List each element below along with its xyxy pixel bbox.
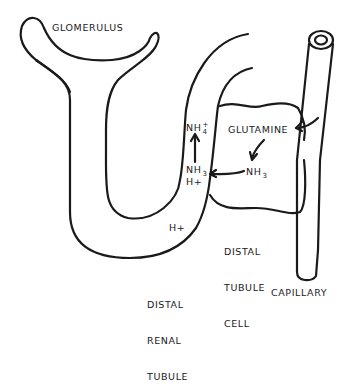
distal-tubule-cell-line-3: CELL (224, 318, 265, 330)
distal-renal-tubule-line-2: RENAL (147, 335, 188, 347)
capillary-tube (297, 44, 333, 280)
h-plus-lumen-label: H+ (186, 176, 202, 188)
distal-renal-tubule-line-1: DISTAL (147, 299, 188, 311)
arrow-glutamine-in (296, 118, 318, 128)
arrow-glutamine-to-nh3 (252, 140, 264, 158)
nh4-superscript: + (203, 121, 209, 129)
nh4-base: NH (186, 122, 201, 133)
nh3-lumen-subscript: 3 (202, 170, 207, 178)
nh3-lumen-base: NH (186, 164, 201, 175)
tubule-inner-wall (210, 68, 252, 178)
distal-renal-tubule-line-3: TUBULE (147, 371, 188, 383)
distal-tubule-cell-label: DISTAL TUBULE CELL (224, 222, 265, 342)
capillary-opening-outer (309, 31, 333, 49)
distal-tubule-cell-line-2: TUBULE (224, 282, 265, 294)
glomerulus-label: GLOMERULUS (52, 22, 123, 34)
nh3-cell-base: NH (246, 166, 261, 177)
nh3-cell-label: NH3 (246, 166, 268, 179)
nh4-subscript: 4 (202, 128, 207, 136)
arrow-nh3-to-lumen (212, 171, 244, 174)
h-plus-tubule-label: H+ (169, 222, 185, 234)
capillary-opening-inner (315, 36, 327, 45)
glomerulus-outline (21, 18, 248, 219)
distal-tubule-cell-outline (210, 103, 305, 213)
nh3-cell-subscript: 3 (262, 172, 267, 180)
nh4-label: NH4+ (186, 122, 209, 135)
distal-tubule-cell-line-1: DISTAL (224, 246, 265, 258)
distal-renal-tubule-label: DISTAL RENAL TUBULE (147, 275, 188, 384)
glutamine-label: GLUTAMINE (228, 124, 288, 136)
capillary-label: CAPILLARY (271, 287, 327, 299)
